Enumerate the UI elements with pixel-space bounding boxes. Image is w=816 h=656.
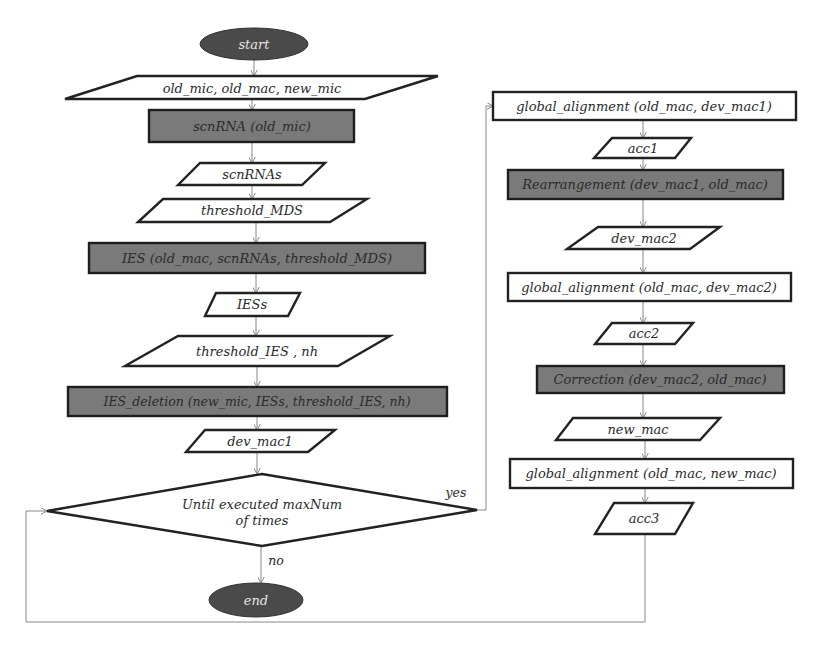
rearrangement-label: Rearrangement (dev_mac1, old_mac) xyxy=(521,177,768,192)
scnrna-label: scnRNA (old_mic) xyxy=(193,119,311,134)
process-global-alignment-1: global_alignment (old_mac, dev_mac1) xyxy=(493,92,796,120)
process-correction: Correction (dev_mac2, old_mac) xyxy=(537,366,784,393)
data-scnrnas: scnRNAs xyxy=(178,163,325,185)
dev-mac2-label: dev_mac2 xyxy=(611,231,677,246)
yes-branch-label: yes xyxy=(445,485,467,500)
process-ies-deletion: IES_deletion (new_mic, IESs, threshold_I… xyxy=(68,387,447,416)
scnrnas-label: scnRNAs xyxy=(222,167,282,182)
input-old-mic-old-mac-new-mic: old_mic, old_mac, new_mic xyxy=(65,76,438,99)
data-acc2: acc2 xyxy=(595,323,693,344)
correction-label: Correction (dev_mac2, old_mac) xyxy=(554,372,767,387)
iess-label: IESs xyxy=(236,297,268,312)
flowchart-canvas: start old_mic, old_mac, new_mic scnRNA (… xyxy=(0,0,816,656)
global-alignment-2-label: global_alignment (old_mac, dev_mac2) xyxy=(521,280,777,295)
decision-until-max-num: Until executed maxNum of times xyxy=(47,474,477,546)
acc2-label: acc2 xyxy=(629,326,660,341)
data-acc1: acc1 xyxy=(594,138,691,158)
decision-line1: Until executed maxNum xyxy=(182,497,342,512)
ies-label: IES (old_mac, scnRNAs, threshold_MDS) xyxy=(121,251,392,266)
new-mac-label: new_mac xyxy=(607,422,669,437)
process-ies: IES (old_mac, scnRNAs, threshold_MDS) xyxy=(89,243,425,273)
dev-mac1-label: dev_mac1 xyxy=(227,434,293,449)
arrow-decision-yes-to-alignment xyxy=(477,106,493,510)
process-scnrna: scnRNA (old_mic) xyxy=(149,110,354,142)
inputs-label: old_mic, old_mac, new_mic xyxy=(163,81,342,96)
data-iess: IESs xyxy=(205,293,300,316)
global-alignment-3-label: global_alignment (old_mac, new_mac) xyxy=(525,466,776,481)
data-dev-mac2: dev_mac2 xyxy=(567,227,720,249)
end-label: end xyxy=(244,593,268,608)
start-terminal: start xyxy=(200,28,308,60)
process-rearrangement: Rearrangement (dev_mac1, old_mac) xyxy=(508,170,783,199)
no-branch-label: no xyxy=(268,553,284,568)
data-new-mac: new_mac xyxy=(556,418,720,440)
end-terminal: end xyxy=(209,583,303,617)
threshold-mds-label: threshold_MDS xyxy=(201,203,303,218)
threshold-ies-label: threshold_IES , nh xyxy=(196,344,318,359)
decision-line2: of times xyxy=(236,513,289,528)
process-global-alignment-3: global_alignment (old_mac, new_mac) xyxy=(510,459,793,488)
data-acc3: acc3 xyxy=(595,503,693,534)
data-dev-mac1: dev_mac1 xyxy=(186,430,335,452)
data-threshold-mds: threshold_MDS xyxy=(138,199,367,222)
data-threshold-ies-nh: threshold_IES , nh xyxy=(125,336,390,366)
acc1-label: acc1 xyxy=(628,141,659,156)
start-label: start xyxy=(238,37,270,52)
acc3-label: acc3 xyxy=(629,511,660,526)
global-alignment-1-label: global_alignment (old_mac, dev_mac1) xyxy=(516,99,772,114)
process-global-alignment-2: global_alignment (old_mac, dev_mac2) xyxy=(508,273,791,301)
ies-deletion-label: IES_deletion (new_mic, IESs, threshold_I… xyxy=(102,394,410,409)
